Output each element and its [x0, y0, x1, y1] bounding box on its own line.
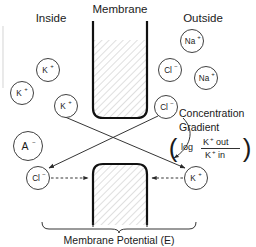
ion-charge: +	[198, 171, 202, 177]
ion-symbol: Cl	[32, 174, 40, 183]
ion-symbol: Cl	[164, 66, 172, 75]
ion-chloride-bottom-left: Cl −	[27, 167, 50, 190]
formula-log: log	[181, 142, 193, 152]
ion-charge: −	[174, 63, 178, 69]
ion-potassium-bottom-right: K +	[185, 167, 208, 190]
ion-circle	[185, 167, 208, 190]
cl-transport-arrow	[49, 116, 158, 168]
ion-symbol: Cl	[160, 103, 168, 112]
note-concentration: Concentration	[179, 107, 245, 119]
formula-denominator-ion: K	[205, 150, 211, 160]
note-gradient: Gradient	[179, 121, 219, 133]
ion-symbol: K	[190, 174, 196, 183]
ion-symbol: K	[42, 66, 48, 75]
diagram-canvas: Inside Membrane Outside K + K + K + Na +	[0, 0, 256, 247]
formula-denominator-charge: +	[212, 148, 216, 155]
ion-charge: −	[170, 100, 174, 106]
ion-circle	[37, 59, 60, 82]
ion-symbol: K	[60, 102, 66, 111]
ion-charge: −	[32, 139, 36, 145]
ion-potassium-inside-3: K +	[55, 95, 78, 118]
caption-membrane-potential: Membrane Potential (E)	[64, 234, 175, 246]
label-membrane: Membrane	[93, 3, 148, 15]
formula-denominator-word: in	[218, 150, 225, 160]
membrane-upper	[93, 21, 147, 118]
k-transport-arrow	[58, 114, 185, 168]
formula-paren-open: (	[169, 133, 178, 163]
label-outside: Outside	[183, 12, 223, 24]
ion-charge: +	[50, 63, 54, 69]
ion-symbol: Na	[185, 37, 196, 46]
membrane-potential-diagram: Inside Membrane Outside K + K + K + Na +	[0, 0, 256, 247]
ion-charge: +	[197, 34, 201, 40]
ion-charge: +	[24, 86, 28, 92]
ion-sodium-outside-1: Na +	[181, 30, 204, 53]
membrane-lower-hatch-fill	[94, 165, 146, 225]
ion-potassium-inside-2: K +	[11, 82, 34, 105]
ion-chloride-outside-2: Cl −	[155, 96, 178, 119]
ion-potassium-inside-1: K +	[37, 59, 60, 82]
membrane-upper-hatch-fill	[94, 40, 146, 117]
ion-symbol: K	[16, 89, 22, 98]
ion-symbol: A	[21, 140, 28, 152]
ion-sodium-outside-2: Na +	[195, 67, 218, 90]
membrane-lower	[93, 164, 147, 227]
ion-symbol: Na	[199, 74, 210, 83]
ion-circle	[11, 82, 34, 105]
ion-charge: +	[211, 71, 215, 77]
ion-charge: −	[42, 171, 46, 177]
ion-chloride-outside-1: Cl −	[159, 59, 182, 82]
formula-numerator-ion: K	[203, 137, 209, 147]
ion-anion-inside: A −	[14, 132, 43, 161]
formula-numerator-charge: +	[210, 135, 214, 142]
ion-circle	[55, 95, 78, 118]
formula-numerator-word: out	[216, 137, 229, 147]
ion-charge: +	[68, 99, 72, 105]
formula-paren-close: )	[243, 133, 252, 163]
gradient-formula: ( log K + out K + in )	[169, 133, 252, 163]
label-inside: Inside	[36, 12, 67, 24]
